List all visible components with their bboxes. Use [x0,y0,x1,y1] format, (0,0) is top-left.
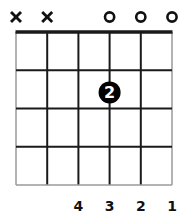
finger-dot: 2 [99,81,121,103]
open-string-icon [167,12,176,21]
open-string-icon [136,12,145,21]
fretboard-grid [16,32,173,185]
finger-dots: 2 [99,81,121,103]
finger-number-label: 3 [105,198,115,214]
open-string-icon [105,12,114,21]
chord-diagram: 2 4321 [0,0,183,220]
finger-dot-number: 2 [104,83,115,102]
string-markers [11,12,177,22]
muted-string-icon [42,12,52,22]
finger-number-label: 2 [136,198,146,214]
muted-string-icon [11,12,21,22]
finger-number-label: 4 [74,198,84,214]
finger-number-label: 1 [167,198,177,214]
finger-number-labels: 4321 [74,198,177,214]
